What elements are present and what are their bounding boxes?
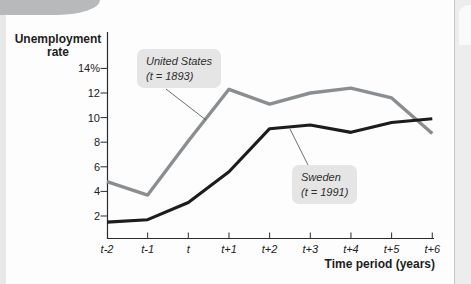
leader-united-states	[166, 89, 206, 120]
x-tick-label: t+5	[372, 243, 412, 255]
y-tick-label: 14%	[58, 62, 100, 74]
leader-sweden	[290, 129, 309, 167]
right-margin-strip	[454, 0, 471, 284]
x-tick-label: t+1	[209, 243, 249, 255]
callout-sweden-year: (t = 1991)	[301, 185, 348, 200]
x-tick-label: t-2	[87, 243, 127, 255]
callout-sweden-name: Sweden	[301, 170, 348, 185]
y-tick-label: 12	[58, 87, 100, 99]
x-axis-title: Time period (years)	[280, 257, 435, 271]
callout-sweden: Sweden (t = 1991)	[292, 165, 357, 204]
y-axis-title-line2: rate	[14, 46, 102, 59]
x-tick-label: t	[168, 243, 208, 255]
adjacent-card-corner	[459, 5, 471, 45]
y-tick-label: 4	[58, 185, 100, 197]
x-tick-label: t+6	[412, 243, 452, 255]
x-tick-label: t-1	[128, 243, 168, 255]
y-axis-title: Unemployment rate	[14, 33, 102, 59]
x-tick-label: t+3	[290, 243, 330, 255]
callout-united-states: United States (t = 1893)	[137, 49, 221, 88]
x-tick-label: t+4	[331, 243, 371, 255]
y-tick-label: 10	[58, 112, 100, 124]
series-line-united-states	[107, 88, 432, 195]
series-line-sweden	[107, 119, 432, 222]
y-tick-label: 8	[58, 136, 100, 148]
callout-united-states-name: United States	[146, 54, 212, 69]
unemployment-comparison-chart: Unemployment rate 14%12108642 t-2t-1tt+1…	[0, 0, 471, 284]
callout-united-states-year: (t = 1893)	[146, 69, 212, 84]
y-tick-label: 2	[58, 210, 100, 222]
y-tick-label: 6	[58, 161, 100, 173]
x-tick-label: t+2	[250, 243, 290, 255]
